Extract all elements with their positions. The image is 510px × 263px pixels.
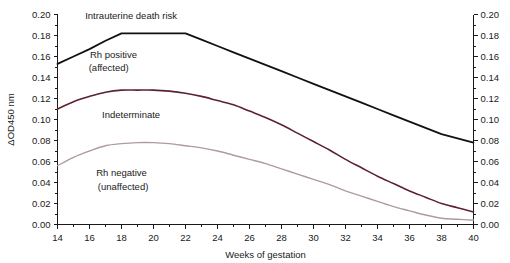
y-tick-label-right: 0.06 [481,156,500,167]
x-tick-label: 26 [244,232,255,243]
chart-canvas: 0.000.020.040.060.080.100.120.140.160.18… [0,0,510,263]
y-tick-label-left: 0.00 [32,219,51,230]
y-tick-label-right: 0.12 [481,93,500,104]
x-axis-title: Weeks of gestation [225,249,306,260]
annotation-intrauterine-death-risk: Intrauterine death risk [85,10,177,21]
annotation-indeterminate: Indeterminate [102,109,160,120]
x-tick-label: 28 [276,232,287,243]
y-tick-label-left: 0.12 [32,93,51,104]
annotation-rh-negative-unaffected-line2: (unaffected) [98,181,149,192]
y-tick-label-right: 0.04 [481,177,500,188]
y-tick-label-left: 0.10 [32,114,51,125]
y-tick-label-right: 0.10 [481,114,500,125]
x-tick-label: 18 [116,232,127,243]
y-tick-label-right: 0.20 [481,9,500,20]
x-tick-label: 16 [84,232,95,243]
x-tick-label: 30 [308,232,319,243]
y-tick-label-right: 0.16 [481,51,500,62]
x-tick-label: 24 [212,232,223,243]
y-axis-title-group: ΔOD450 nm [5,93,16,145]
y-tick-label-left: 0.08 [32,135,51,146]
y-tick-label-right: 0.00 [481,219,500,230]
x-tick-label: 22 [180,232,191,243]
annotation-rh-positive-affected-line2: (affected) [89,62,129,73]
y-tick-label-left: 0.02 [32,198,51,209]
amniotic-fluid-liley-chart: 0.000.020.040.060.080.100.120.140.160.18… [0,0,510,263]
y-tick-label-left: 0.18 [32,30,51,41]
y-tick-label-right: 0.18 [481,30,500,41]
y-tick-label-left: 0.16 [32,51,51,62]
x-tick-label: 14 [52,232,63,243]
annotation-rh-negative-unaffected-line1: Rh negative [96,167,147,178]
y-tick-label-left: 0.14 [32,72,51,83]
x-tick-label: 32 [340,232,351,243]
y-tick-label-right: 0.02 [481,198,500,209]
annotation-rh-positive-affected-line1: Rh positive [90,49,137,60]
y-tick-label-left: 0.06 [32,156,51,167]
y-tick-label-right: 0.14 [481,72,500,83]
x-tick-label: 38 [436,232,447,243]
y-tick-label-left: 0.20 [32,9,51,20]
y-tick-label-right: 0.08 [481,135,500,146]
y-tick-label-left: 0.04 [32,177,51,188]
y-axis-title: ΔOD450 nm [5,93,16,145]
x-tick-label: 36 [404,232,415,243]
x-tick-label: 20 [148,232,159,243]
x-tick-label: 40 [468,232,479,243]
x-tick-label: 34 [372,232,383,243]
